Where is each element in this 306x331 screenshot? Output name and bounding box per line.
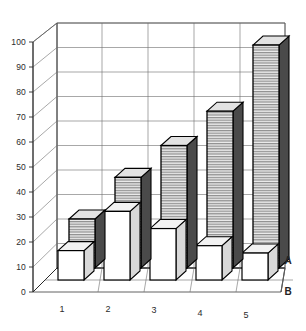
y-tick-label: 20: [16, 237, 26, 247]
chart-canvas: 100 90 80 70 60 50 40 30 20 10 0 1 2 3 4…: [0, 0, 306, 331]
series-label-b: B: [284, 286, 291, 297]
y-tick-label: 30: [16, 212, 26, 222]
bar-front-face: [196, 246, 222, 280]
y-tick-label: 80: [16, 87, 26, 97]
bar-series-b-cat-2: [104, 202, 140, 280]
bar-side-face: [95, 210, 105, 268]
bar-front-face: [253, 45, 279, 268]
y-tick-label: 40: [16, 187, 26, 197]
bar-series-b-cat-1: [58, 242, 94, 280]
bar-side-face: [279, 36, 289, 268]
bar-side-face: [141, 168, 151, 268]
bar-side-face: [233, 102, 243, 268]
bar-series-b-cat-3: [150, 220, 186, 280]
x-tick-label: 5: [243, 310, 248, 320]
x-tick-label: 1: [59, 304, 64, 314]
y-tick-label: 100: [11, 37, 26, 47]
bar-chart-figure: 100 90 80 70 60 50 40 30 20 10 0 1 2 3 4…: [0, 0, 306, 331]
bar-side-face: [187, 137, 197, 269]
bar-front-face: [242, 253, 268, 280]
y-tick-label: 0: [21, 287, 26, 297]
y-tick-label: 60: [16, 137, 26, 147]
bar-front-face: [104, 211, 130, 280]
bar-series-b-cat-5: [242, 244, 278, 280]
y-tick-label: 70: [16, 112, 26, 122]
y-tick-label: 10: [16, 262, 26, 272]
bar-front-face: [58, 251, 84, 280]
x-tick-label: 3: [151, 305, 156, 315]
y-tick-label: 50: [16, 162, 26, 172]
bar-side-face: [176, 220, 186, 280]
bar-side-face: [130, 202, 140, 280]
y-tick-label: 90: [16, 62, 26, 72]
x-tick-label: 2: [105, 304, 110, 314]
series-label-a: A: [284, 255, 291, 266]
bar-series-a-cat-5: [253, 36, 289, 268]
x-tick-label: 4: [197, 308, 202, 318]
bar-front-face: [150, 229, 176, 280]
bar-series-b-cat-4: [196, 237, 232, 280]
